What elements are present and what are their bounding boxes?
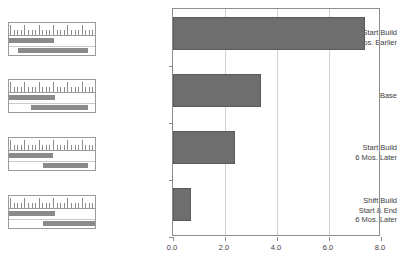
thumb-row-divider [9, 219, 95, 220]
thumb-ruler-tick [21, 145, 22, 150]
plot-area [172, 8, 380, 236]
thumb-ruler-tick [92, 203, 93, 208]
thumb-ruler-tick [71, 203, 72, 208]
thumb-ruler-tick [82, 82, 83, 92]
thumb-ruler-tick [85, 30, 86, 35]
thumb-ruler-tick [89, 87, 90, 92]
thumb-ruler-tick [75, 203, 76, 208]
x-axis-tick [225, 237, 226, 241]
thumb-ruler-tick [21, 203, 22, 208]
thumb-ruler-tick [53, 25, 54, 35]
thumb-ruler-tick [10, 82, 11, 92]
thumb-ruler-tick [46, 145, 47, 150]
thumb-ruler-tick [57, 87, 58, 92]
thumb-ruler-tick [57, 145, 58, 150]
thumb-ruler-tick [17, 87, 18, 92]
thumb-ruler-tick [14, 30, 15, 35]
thumb-ruler-tick [78, 145, 79, 150]
x-axis-tick [173, 237, 174, 241]
thumb-ruler-tick [14, 87, 15, 92]
thumb-ruler-tick [92, 87, 93, 92]
thumb-ruler-tick [32, 87, 33, 92]
thumb-ruler-tick [10, 140, 11, 150]
thumb-ruler-tick [32, 203, 33, 208]
thumb-row-divider [9, 46, 95, 47]
bar-2 [173, 131, 235, 164]
thumb-timeline-ruler [9, 80, 95, 93]
thumb-ruler-tick [71, 145, 72, 150]
thumb-ruler-tick [17, 30, 18, 35]
thumb-ruler-tick [32, 145, 33, 150]
thumb-ruler-tick [28, 87, 29, 92]
thumb-ruler-tick [21, 30, 22, 35]
thumb-ruler-tick [67, 198, 68, 208]
thumb-ruler-tick [78, 87, 79, 92]
thumb-ruler-tick [89, 30, 90, 35]
x-tick-label-2: 4.0 [264, 243, 288, 252]
thumb-ruler-tick [71, 30, 72, 35]
thumb-ruler-tick [49, 30, 50, 35]
y-axis-tick [169, 123, 173, 124]
thumb-ruler-tick [14, 145, 15, 150]
x-axis-tick [329, 237, 330, 241]
thumb-ruler-tick [82, 140, 83, 150]
thumb-ruler-tick [39, 25, 40, 35]
thumb-ruler-tick [46, 87, 47, 92]
thumb-ruler-tick [64, 30, 65, 35]
thumb-ruler-tick [17, 203, 18, 208]
thumb-timeline-ruler [9, 196, 95, 209]
thumb-ruler-tick [39, 82, 40, 92]
thumb-ruler-tick [24, 140, 25, 150]
thumb-ruler-tick [53, 198, 54, 208]
thumb-ruler-tick [46, 203, 47, 208]
thumb-gantt-bar [9, 153, 53, 158]
thumb-ruler-tick [78, 203, 79, 208]
thumb-ruler-tick [21, 87, 22, 92]
thumb-gantt-bar [18, 48, 88, 53]
thumb-ruler-tick [49, 87, 50, 92]
thumb-ruler-tick [60, 203, 61, 208]
thumb-ruler-tick [49, 203, 50, 208]
thumb-ruler-tick [10, 25, 11, 35]
thumb-gantt-bar [9, 95, 55, 100]
thumb-row-divider [9, 161, 95, 162]
bar-chart: Start Build 6 Mos. Earlier Base Start Bu… [105, 0, 397, 263]
thumb-ruler-tick [39, 198, 40, 208]
x-axis-tick [381, 237, 382, 241]
thumb-gantt-bar [43, 163, 89, 168]
thumb-ruler-tick [89, 203, 90, 208]
thumb-ruler-tick [35, 30, 36, 35]
thumb-ruler-tick [42, 30, 43, 35]
thumb-ruler-tick [92, 145, 93, 150]
x-axis-tick [277, 237, 278, 241]
schedule-thumb-start-build-later [8, 137, 96, 171]
y-axis-tick [169, 180, 173, 181]
thumb-ruler-tick [46, 30, 47, 35]
thumb-ruler-tick [82, 198, 83, 208]
thumb-ruler-tick [75, 145, 76, 150]
x-tick-label-0: 0.0 [160, 243, 184, 252]
thumb-ruler-tick [85, 87, 86, 92]
x-tick-label-1: 2.0 [212, 243, 236, 252]
thumb-ruler-tick [85, 145, 86, 150]
thumb-ruler-tick [28, 145, 29, 150]
thumb-ruler-tick [10, 198, 11, 208]
x-tick-label-3: 6.0 [316, 243, 340, 252]
thumb-ruler-tick [64, 87, 65, 92]
thumb-gantt-bar [43, 221, 95, 226]
thumb-ruler-tick [75, 87, 76, 92]
thumb-ruler-tick [92, 30, 93, 35]
thumb-ruler-tick [57, 30, 58, 35]
thumb-ruler-tick [67, 140, 68, 150]
thumb-ruler-tick [64, 203, 65, 208]
thumb-ruler-tick [24, 25, 25, 35]
thumb-gantt-bar [9, 38, 54, 43]
thumb-ruler-tick [89, 145, 90, 150]
thumb-ruler-tick [60, 87, 61, 92]
y-axis-tick [169, 66, 173, 67]
thumb-ruler-tick [82, 25, 83, 35]
x-tick-label-4: 8.0 [368, 243, 392, 252]
chart-figure: Start Build 6 Mos. Earlier Base Start Bu… [0, 0, 397, 263]
thumb-ruler-tick [57, 203, 58, 208]
thumb-gantt-bar [9, 211, 55, 216]
